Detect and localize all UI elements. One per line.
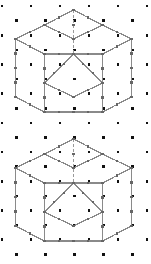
grid-dot [59, 209, 62, 212]
isometric-cube-top-edge-tick [101, 67, 103, 69]
isometric-cube-top-edge-tick [87, 89, 89, 91]
isometric-cube-top-edge-tick [130, 81, 132, 83]
grid-dot [30, 209, 33, 212]
isometric-drawing-svg [0, 0, 151, 264]
grid-dot [131, 107, 134, 110]
grid-dot [146, 180, 149, 183]
isometric-cube-top-hidden-edge-tick [72, 53, 74, 55]
grid-dot [131, 136, 134, 139]
isometric-cube-top-edge-tick [130, 96, 132, 98]
isometric-cube-bottom-edge-tick [101, 153, 103, 155]
isometric-cube-top-edge-tick [58, 89, 60, 91]
isometric-cube-bottom-edge-tick [87, 160, 89, 162]
isometric-cube-top-edge-tick [63, 63, 65, 65]
grid-dot [146, 92, 149, 95]
isometric-cube-top-edge-tick [58, 31, 60, 33]
isometric-cube-top-edge-tick [101, 82, 103, 84]
grid-dot [1, 151, 4, 154]
isometric-cube-top-edge-tick [14, 81, 16, 83]
grid-dot [88, 92, 91, 95]
isometric-cube-top-edge-tick [130, 38, 132, 40]
isometric-cube-top-edge-tick [82, 63, 84, 65]
isometric-cube-bottom-edge-tick [53, 201, 55, 203]
grid-dot [117, 92, 120, 95]
grid-dot [1, 34, 4, 37]
grid-dot [117, 151, 120, 154]
grid-dot [1, 92, 4, 95]
isometric-cube-top-edge-tick [87, 16, 89, 18]
grid-dot [117, 180, 120, 183]
isometric-cube-bottom-edge-tick [87, 218, 89, 220]
isometric-cube-top-hidden-edge-tick [72, 24, 74, 26]
grid-dot [131, 19, 134, 22]
isometric-cube-bottom-edge-tick [72, 240, 74, 242]
isometric-cube-top-edge-tick [43, 82, 45, 84]
grid-dot [44, 253, 47, 256]
isometric-cube-bottom-edge-tick [29, 232, 31, 234]
grid-dot [44, 165, 47, 168]
grid-dot [1, 238, 4, 241]
isometric-cube-bottom-edge-tick [116, 232, 118, 234]
isometric-cube-top-edge-tick [43, 67, 45, 69]
isometric-cube-bottom-edge-tick [58, 145, 60, 147]
isometric-cube-bottom-edge-tick [101, 225, 103, 227]
isometric-cube-bottom-hidden-edge-tick [72, 138, 74, 140]
isometric-cube-bottom-edge-tick [116, 160, 118, 162]
grid-dot [44, 49, 47, 52]
grid-dot [146, 63, 149, 66]
isometric-cube-top-edge-tick [72, 111, 74, 113]
isometric-cube-bottom-edge-tick [87, 182, 89, 184]
isometric-cube-top-edge-tick [72, 96, 74, 98]
isometric-cube-top-edge-tick [58, 53, 60, 55]
isometric-cube-top-edge-tick [87, 53, 89, 55]
isometric-cube-top-edge-tick [53, 72, 55, 74]
grid-dot [59, 63, 62, 66]
grid-dot [88, 63, 91, 66]
isometric-cube-top-edge-tick [43, 96, 45, 98]
grid-dot [30, 92, 33, 95]
isometric-cube-top-edge-tick [101, 24, 103, 26]
grid-dot [73, 78, 76, 81]
grid-dot [88, 5, 91, 8]
grid-dot [59, 34, 62, 37]
isometric-cube-top-edge-tick [101, 111, 103, 113]
isometric-cube-top-edge-tick [130, 52, 132, 54]
grid-dot [73, 107, 76, 110]
grid-dot [102, 19, 105, 22]
grid-dot [88, 209, 91, 212]
isometric-cube-top-edge-tick [58, 111, 60, 113]
isometric-cube-top-edge-tick [92, 72, 94, 74]
isometric-cube-bottom-edge-tick [43, 182, 45, 184]
grid-dot [44, 136, 47, 139]
isometric-cube-bottom-edge-tick [72, 225, 74, 227]
grid-dot [102, 49, 105, 52]
isometric-cube-bottom-edge-tick [14, 167, 16, 169]
grid-dot [1, 5, 4, 8]
grid-dot [146, 209, 149, 212]
grid-dot [59, 92, 62, 95]
grid-dot [117, 122, 120, 125]
grid-dot [30, 34, 33, 37]
isometric-cube-top-edge-tick [14, 67, 16, 69]
isometric-cube-bottom-edge-tick [29, 160, 31, 162]
isometric-cube-top-edge-tick [87, 31, 89, 33]
isometric-cube-bottom-hidden-edge-tick [72, 182, 74, 184]
grid-dot [102, 136, 105, 139]
isometric-cube-bottom-hidden-edge-tick [72, 153, 74, 155]
isometric-cube-bottom-edge-tick [82, 192, 84, 194]
isometric-cube-top-edge-tick [14, 96, 16, 98]
isometric-cube-top-hidden-edge-tick [72, 38, 74, 40]
isometric-cube-top-edge-tick [116, 31, 118, 33]
grid-dot [146, 34, 149, 37]
grid-dot [146, 238, 149, 241]
grid-dot [117, 5, 120, 8]
grid-dot [1, 63, 4, 66]
isometric-cube-bottom-edge-tick [58, 182, 60, 184]
grid-dot [30, 5, 33, 8]
isometric-cube-bottom-edge-tick [14, 196, 16, 198]
isometric-cube-top-edge-tick [29, 45, 31, 47]
grid-dot [1, 180, 4, 183]
isometric-cube-bottom-edge-tick [130, 167, 132, 169]
isometric-cube-bottom-edge-tick [43, 240, 45, 242]
grid-dot [88, 151, 91, 154]
